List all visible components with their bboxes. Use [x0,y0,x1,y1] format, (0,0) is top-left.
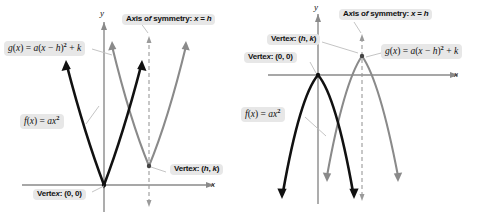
figure-root: x y g(x) = a(x − h)2 + k f(x) = ax2 Axis… [0,0,479,216]
y-axis-label-upward: y [100,8,104,18]
label-f-function-upward: f(x) = ax2 [20,114,64,129]
vertex-dot-origin-downward [316,73,320,77]
vertex-dot-hk-upward [147,164,151,168]
x-axis-upward [22,182,214,188]
x-axis-downward [268,72,458,78]
label-vertex-hk-upward: Vertex: (h, k) [170,164,223,175]
label-f-function-downward: f(x) = ax2 [241,107,285,122]
label-axis-of-symmetry-downward: Axis of symmetry: x = h [339,9,432,20]
label-g-function-downward: g(x) = a(x − h)2 + k [381,44,462,59]
label-vertex-origin-downward: Vertex: (0, 0) [244,52,297,63]
x-axis-label-upward: x [211,179,215,189]
label-vertex-hk-downward: Vertex: (h, k) [267,34,320,45]
label-vertex-origin-upward: Vertex: (0, 0) [33,189,86,200]
y-axis-label-downward: y [314,2,318,12]
vertex-dot-hk-downward [360,54,364,58]
axis-of-symmetry-line-upward [147,36,152,207]
label-axis-of-symmetry-upward: Axis of symmetry: x = h [122,14,215,25]
plot-svg-upward [0,0,239,216]
x-axis-label-downward: x [454,69,458,79]
chart-panel-downward: x y Axis of symmetry: x = h Vertex: (h, … [240,0,479,216]
chart-panel-upward: x y g(x) = a(x − h)2 + k f(x) = ax2 Axis… [0,0,239,216]
label-g-function-upward: g(x) = a(x − h)2 + k [4,41,85,56]
